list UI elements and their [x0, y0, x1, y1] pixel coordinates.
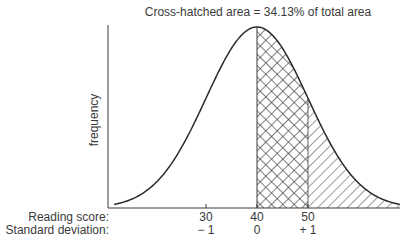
score-row-label: Reading score:	[28, 210, 109, 224]
chart: Cross-hatched area = 34.13% of total are…	[0, 0, 409, 243]
cross-hatched-region	[257, 27, 308, 208]
sd-tick-label: − 1	[197, 223, 214, 237]
single-hatched-region	[308, 98, 400, 208]
y-axis-label: frequency	[87, 94, 101, 147]
score-tick-label: 30	[199, 210, 213, 224]
sd-row-label: Standard deviation:	[6, 223, 109, 237]
score-tick-label: 40	[250, 210, 264, 224]
score-tick-label: 50	[301, 210, 315, 224]
sd-tick-label: + 1	[299, 223, 316, 237]
sd-tick-label: 0	[254, 223, 261, 237]
chart-title: Cross-hatched area = 34.13% of total are…	[145, 5, 372, 19]
